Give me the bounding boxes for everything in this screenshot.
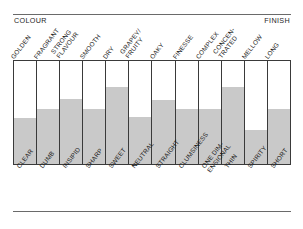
top-label: MELLOW: [240, 33, 264, 60]
axis-header-finish: FINISH: [264, 16, 290, 25]
top-label: LONG: [263, 41, 280, 60]
bar-column: [14, 61, 37, 164]
bottom-divider-rule: [13, 211, 291, 212]
top-label: FINESSE: [171, 33, 195, 60]
bar-column: [37, 61, 60, 164]
top-label: OAKY: [148, 41, 165, 60]
bar-column: [106, 61, 129, 164]
top-label: DRY: [101, 44, 115, 60]
top-label: GRAPEY/FRUITY: [119, 27, 149, 60]
top-label: GOLDEN: [9, 33, 32, 60]
tasting-profile-figure: COLOUR FINISH GOLDENFRAGRANTSTRONGFLAVOU…: [0, 0, 303, 229]
bar-chart-plot-area: [13, 60, 291, 165]
top-divider-rule: [13, 14, 291, 15]
axis-header-colour: COLOUR: [14, 16, 47, 25]
top-label: SMOOTH: [78, 32, 102, 60]
bar-column: [83, 61, 106, 164]
